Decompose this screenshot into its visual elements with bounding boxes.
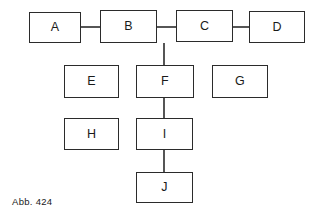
node-label-f: F <box>161 75 169 88</box>
node-label-e: E <box>87 75 96 88</box>
node-box-f[interactable]: F <box>136 65 194 98</box>
node-box-j[interactable]: J <box>136 172 193 203</box>
node-box-g[interactable]: G <box>212 65 268 98</box>
figure-caption: Abb. 424 <box>12 196 52 207</box>
node-label-b: B <box>124 20 133 33</box>
node-label-g: G <box>235 75 245 88</box>
node-box-c[interactable]: C <box>176 10 233 42</box>
node-box-e[interactable]: E <box>64 65 119 98</box>
node-box-b[interactable]: B <box>100 10 157 43</box>
node-label-j: J <box>161 181 167 194</box>
node-box-a[interactable]: A <box>29 12 81 43</box>
node-box-i[interactable]: I <box>136 118 193 150</box>
node-box-d[interactable]: D <box>249 11 305 43</box>
node-label-i: I <box>163 127 167 140</box>
node-label-a: A <box>51 21 60 34</box>
figure-container: ABCDEFGHIJ Abb. 424 <box>0 0 322 223</box>
node-box-h[interactable]: H <box>64 118 119 150</box>
node-label-d: D <box>272 20 281 33</box>
node-label-c: C <box>200 19 209 32</box>
node-label-h: H <box>87 127 96 140</box>
